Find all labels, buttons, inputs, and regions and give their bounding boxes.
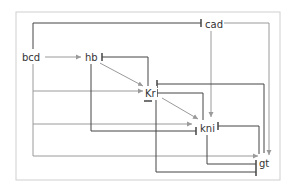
edge-cad-gt [221,23,269,155]
gene-network-diagram: bcd hb cad Kr kni gt [0,0,293,194]
nodes: bcd hb cad Kr kni gt [20,17,273,171]
node-bcd: bcd [22,52,40,63]
edge-kni-Kr [157,93,203,120]
edge-Kr-kni [162,98,198,119]
edge-bcd-Kr [33,62,143,91]
node-Kr: Kr [145,88,157,99]
edge-hb-Kr [98,62,143,86]
edge-bcd-cad [33,23,201,49]
edge-gt-kni [207,132,256,164]
edge-bcd-gt [33,124,258,156]
edge-kni-gt [218,126,259,154]
edge-bcd-kni [33,91,192,124]
node-gt: gt [259,158,269,169]
node-kni: kni [200,123,215,134]
edge-hb-kni [91,63,196,131]
node-hb: hb [85,52,98,63]
node-cad: cad [205,19,223,30]
